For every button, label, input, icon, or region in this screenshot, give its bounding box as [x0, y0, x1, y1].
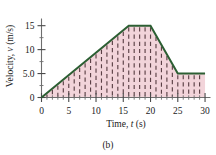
- x-tick-label: 25: [173, 106, 183, 116]
- velocity-time-chart: 05.01015 051015202530 Velocity, v (m/s) …: [0, 0, 216, 155]
- velocity-time-figure: 05.01015 051015202530 Velocity, v (m/s) …: [0, 0, 216, 155]
- x-axis-label: Time, t (s): [106, 119, 146, 130]
- y-tick-label: 10: [25, 45, 35, 55]
- y-axis-label: Velocity, v (m/s): [5, 25, 16, 87]
- x-tick-label: 30: [200, 106, 210, 116]
- x-tick-label: 10: [91, 106, 101, 116]
- x-tick-label: 15: [119, 106, 129, 116]
- y-tick-label: 15: [25, 21, 35, 31]
- y-tick-label: 5.0: [23, 69, 35, 79]
- x-tick-label: 0: [39, 106, 44, 116]
- x-tick-label: 5: [66, 106, 71, 116]
- x-axis-tick-labels: 051015202530: [39, 106, 210, 116]
- x-tick-label: 20: [146, 106, 156, 116]
- y-axis-tick-labels: 05.01015: [23, 21, 35, 103]
- panel-caption: (b): [102, 140, 113, 151]
- y-tick-label: 0: [30, 93, 35, 103]
